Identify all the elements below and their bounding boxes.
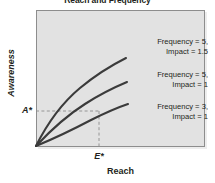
curve-annotation-frequency5-impact1: Frequency = 5, Impact = 1 [128,70,208,89]
curve-annotation-frequency5-impact15: Frequency = 5, Impact = 1.5 [128,37,208,56]
curve-annotation-line2: Impact = 1.5 [128,47,208,57]
curve-annotation-frequency3-impact1: Frequency = 3, Impact = 1 [128,102,208,121]
y-axis-tick-label-a-star: A* [12,105,32,115]
curve-annotation-line1: Frequency = 5, [157,37,208,46]
curve-frequency3-impact1 [36,104,128,146]
curve-annotation-line1: Frequency = 5, [157,70,208,79]
x-axis-title: Reach [36,166,205,176]
curve-group [36,58,128,146]
x-axis-tick-label-e-star: E* [84,151,114,161]
curve-annotation-line2: Impact = 1 [128,112,208,122]
curve-frequency5-impact1 [36,82,127,146]
chart-figure: Reach and Frequency Awareness Reach A* E… [0,0,215,183]
curve-annotation-line1: Frequency = 3, [157,102,208,111]
curve-annotation-line2: Impact = 1 [128,80,208,90]
y-axis-title: Awareness [6,38,16,108]
